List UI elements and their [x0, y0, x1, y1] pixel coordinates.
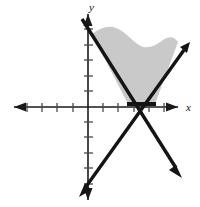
coordinate-plane-svg: x y	[0, 0, 200, 207]
descending-line-end-arrow-icon	[169, 165, 182, 178]
math-graph-figure: x y	[0, 0, 200, 207]
x-axis-right-arrow-icon	[166, 103, 178, 112]
solution-region-shape	[92, 27, 178, 104]
y-axis-label: y	[88, 1, 94, 13]
x-axis-label: x	[185, 101, 191, 113]
x-axis-left-arrow-icon	[14, 103, 26, 112]
